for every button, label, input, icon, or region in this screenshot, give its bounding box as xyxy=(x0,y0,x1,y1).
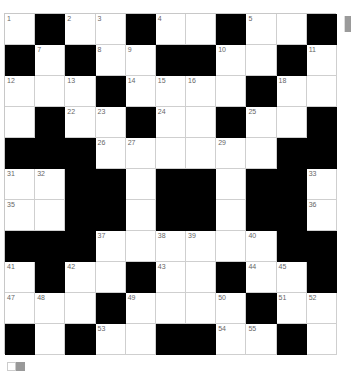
answer-cell[interactable] xyxy=(126,200,156,231)
answer-cell[interactable] xyxy=(186,138,216,169)
answer-cell[interactable] xyxy=(216,200,246,231)
clue-number: 44 xyxy=(248,263,256,270)
answer-cell[interactable]: 35 xyxy=(5,200,35,231)
answer-cell[interactable]: 11 xyxy=(307,45,337,76)
answer-cell[interactable] xyxy=(65,293,95,324)
answer-cell[interactable] xyxy=(277,107,307,138)
crossword-grid: 1234578910111213141516182223242526272931… xyxy=(4,13,336,354)
answer-cell[interactable]: 31 xyxy=(5,169,35,200)
answer-cell[interactable]: 25 xyxy=(246,107,276,138)
answer-cell[interactable] xyxy=(307,76,337,107)
answer-cell[interactable]: 48 xyxy=(35,293,65,324)
answer-cell[interactable] xyxy=(216,169,246,200)
clue-number: 22 xyxy=(67,108,75,115)
answer-cell[interactable] xyxy=(246,45,276,76)
block-cell xyxy=(5,324,35,355)
answer-cell[interactable]: 9 xyxy=(126,45,156,76)
answer-cell[interactable]: 3 xyxy=(96,14,126,45)
answer-cell[interactable]: 22 xyxy=(65,107,95,138)
answer-cell[interactable]: 37 xyxy=(96,231,126,262)
clue-number: 29 xyxy=(218,139,226,146)
answer-cell[interactable]: 50 xyxy=(216,293,246,324)
answer-cell[interactable]: 55 xyxy=(246,324,276,355)
block-cell xyxy=(277,169,307,200)
answer-cell[interactable] xyxy=(5,107,35,138)
answer-cell[interactable] xyxy=(156,138,186,169)
answer-cell[interactable]: 40 xyxy=(246,231,276,262)
clue-number: 23 xyxy=(98,108,106,115)
answer-cell[interactable]: 7 xyxy=(35,45,65,76)
answer-cell[interactable]: 15 xyxy=(156,76,186,107)
block-cell xyxy=(277,138,307,169)
answer-cell[interactable]: 5 xyxy=(246,14,276,45)
answer-cell[interactable] xyxy=(216,76,246,107)
block-cell xyxy=(186,169,216,200)
block-cell xyxy=(216,107,246,138)
answer-cell[interactable]: 8 xyxy=(96,45,126,76)
answer-cell[interactable] xyxy=(35,200,65,231)
clue-number: 15 xyxy=(158,77,166,84)
answer-cell[interactable]: 16 xyxy=(186,76,216,107)
answer-cell[interactable] xyxy=(307,324,337,355)
clue-number: 2 xyxy=(67,15,71,22)
answer-cell[interactable]: 47 xyxy=(5,293,35,324)
answer-cell[interactable]: 10 xyxy=(216,45,246,76)
answer-cell[interactable] xyxy=(126,324,156,355)
answer-cell[interactable]: 29 xyxy=(216,138,246,169)
answer-cell[interactable]: 27 xyxy=(126,138,156,169)
clue-number: 11 xyxy=(309,46,316,53)
clue-number: 1 xyxy=(7,15,11,22)
answer-cell[interactable]: 23 xyxy=(96,107,126,138)
answer-cell[interactable] xyxy=(35,76,65,107)
answer-cell[interactable]: 49 xyxy=(126,293,156,324)
legend-gray-swatch-icon xyxy=(16,362,25,371)
answer-cell[interactable] xyxy=(156,293,186,324)
answer-cell[interactable]: 53 xyxy=(96,324,126,355)
answer-cell[interactable] xyxy=(186,262,216,293)
answer-cell[interactable] xyxy=(126,231,156,262)
answer-cell[interactable] xyxy=(186,107,216,138)
answer-cell[interactable] xyxy=(186,293,216,324)
answer-cell[interactable] xyxy=(246,138,276,169)
answer-cell[interactable]: 12 xyxy=(5,76,35,107)
answer-cell[interactable]: 54 xyxy=(216,324,246,355)
answer-cell[interactable]: 18 xyxy=(277,76,307,107)
answer-cell[interactable]: 41 xyxy=(5,262,35,293)
answer-cell[interactable]: 43 xyxy=(156,262,186,293)
answer-cell[interactable]: 39 xyxy=(186,231,216,262)
clue-number: 39 xyxy=(188,232,196,239)
block-cell xyxy=(277,231,307,262)
answer-cell[interactable]: 42 xyxy=(65,262,95,293)
answer-cell[interactable]: 44 xyxy=(246,262,276,293)
answer-cell[interactable]: 4 xyxy=(156,14,186,45)
scrollbar-thumb[interactable] xyxy=(344,16,351,32)
block-cell xyxy=(216,262,246,293)
clue-number: 51 xyxy=(279,294,287,301)
clue-number: 52 xyxy=(309,294,317,301)
answer-cell[interactable] xyxy=(216,231,246,262)
block-cell xyxy=(65,45,95,76)
clue-number: 8 xyxy=(98,46,102,53)
answer-cell[interactable]: 2 xyxy=(65,14,95,45)
answer-cell[interactable]: 45 xyxy=(277,262,307,293)
answer-cell[interactable]: 36 xyxy=(307,200,337,231)
answer-cell[interactable]: 33 xyxy=(307,169,337,200)
answer-cell[interactable]: 14 xyxy=(126,76,156,107)
answer-cell[interactable]: 52 xyxy=(307,293,337,324)
legend-white-swatch-icon xyxy=(7,362,16,371)
answer-cell[interactable] xyxy=(35,324,65,355)
answer-cell[interactable]: 24 xyxy=(156,107,186,138)
answer-cell[interactable]: 13 xyxy=(65,76,95,107)
answer-cell[interactable]: 32 xyxy=(35,169,65,200)
answer-cell[interactable] xyxy=(277,14,307,45)
answer-cell[interactable] xyxy=(186,14,216,45)
answer-cell[interactable]: 1 xyxy=(5,14,35,45)
block-cell xyxy=(307,107,337,138)
answer-cell[interactable]: 51 xyxy=(277,293,307,324)
answer-cell[interactable] xyxy=(126,169,156,200)
answer-cell[interactable]: 38 xyxy=(156,231,186,262)
answer-cell[interactable] xyxy=(96,262,126,293)
answer-cell[interactable]: 26 xyxy=(96,138,126,169)
clue-number: 38 xyxy=(158,232,166,239)
clue-number: 4 xyxy=(158,15,162,22)
